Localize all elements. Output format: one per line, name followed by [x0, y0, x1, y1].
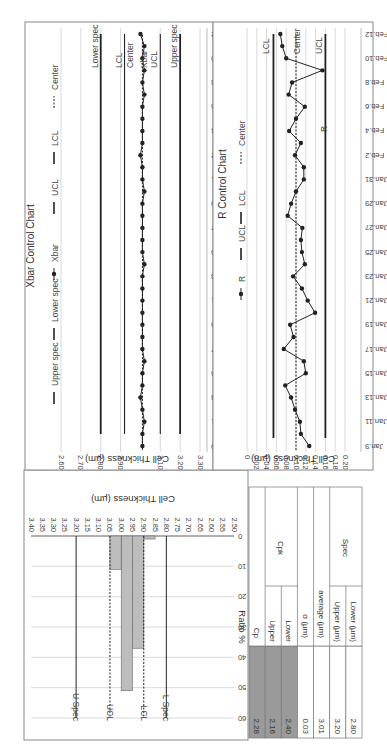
r-data-point [307, 444, 311, 448]
r-data-point [289, 395, 293, 399]
r-data-point [300, 286, 304, 290]
r-data-point [291, 335, 295, 339]
r-annotation: LCL [261, 38, 271, 54]
xbar-data-point [140, 165, 144, 169]
histogram-xtick-label: 2.80 [162, 517, 171, 532]
xbar-data-point [140, 141, 144, 145]
xbar-annotation: Xbar [139, 50, 149, 68]
xbar-ytick-label: 2.60 [57, 455, 66, 470]
r-ytick-label: 0.20 [341, 455, 350, 470]
xbar-data-point [140, 117, 144, 121]
r-xtick-label: Jan.15 [365, 369, 387, 378]
xbar-data-point [140, 177, 144, 181]
r-data-point [303, 105, 307, 109]
r-data-point [300, 250, 304, 254]
xbar-data-point [140, 335, 144, 339]
r-data-point [302, 359, 306, 363]
histogram-ytick-label: 0 [238, 532, 242, 541]
histogram-xtick-label: 2.50 [230, 517, 239, 532]
r-xtick-label: Jan.29 [365, 199, 387, 208]
histogram-ref-label: L Spec [161, 695, 171, 722]
r-data-point [285, 214, 289, 218]
r-data-point [283, 383, 287, 387]
r-data-point [294, 117, 298, 121]
table-value: 2.80 [349, 718, 358, 734]
r-legend-label: R [237, 276, 247, 282]
r-xtick-label: Feb.8 [365, 78, 384, 87]
r-data-point [293, 153, 297, 157]
histogram-xtick-label: 2.55 [218, 517, 227, 532]
table-value: 3.20 [333, 718, 342, 734]
r-xtick-label: Jan.25 [365, 248, 387, 257]
histogram-xtick-label: 2.65 [196, 517, 205, 532]
r-ylabel: Cell Thickness (µm) [251, 454, 335, 465]
histogram-ytick-label: 20 [238, 592, 246, 601]
xbar-annotation: Upper spec [169, 24, 179, 68]
histogram-xtick-label: 2.90 [139, 517, 148, 532]
histogram-ref-label: LCL [139, 705, 149, 721]
r-data-point [291, 274, 295, 278]
table-label-cpk: Cpk [276, 541, 285, 556]
r-annotation: Center [292, 28, 302, 54]
r-data-point [290, 80, 294, 84]
r-data-point [284, 56, 288, 60]
histogram-ytick-label: 50 [238, 683, 246, 692]
histogram-bar [133, 536, 144, 648]
histogram-bar [110, 536, 121, 569]
figure-stage: 01020304050602.502.552.602.652.702.752.8… [0, 0, 387, 754]
xbar-data-point [138, 153, 142, 157]
xbar-ytick-label: 3.30 [196, 455, 205, 470]
r-xtick-label: Jan.9 [365, 442, 383, 451]
r-data-point [302, 177, 306, 181]
histogram-xtick-label: 2.95 [128, 517, 137, 532]
r-data-point [320, 68, 324, 72]
histogram-xtick-label: 2.75 [173, 517, 182, 532]
r-data-point [303, 262, 307, 266]
xbar-data-point [140, 383, 144, 387]
xbar-title: Xbar Control Chart [25, 204, 36, 288]
xbar-data-point [140, 311, 144, 315]
xbar-legend-label: Center [50, 64, 60, 90]
r-xtick-label: Jan.19 [365, 320, 387, 329]
r-xtick-label: Jan.11 [365, 417, 387, 426]
histogram-xtick-label: 3.30 [49, 517, 58, 532]
table-label-spec-lower: Lower (µm) [349, 601, 358, 642]
histogram-ref-label: UCL [105, 704, 115, 721]
xbar-data-point [140, 286, 144, 290]
r-xtick-label: Feb.12 [365, 30, 387, 39]
r-data-point [288, 323, 292, 327]
histogram-ref-label: U Spec [71, 693, 81, 722]
histogram-ytick-label: 10 [238, 562, 246, 571]
histogram-xtick-label: 3.35 [38, 517, 47, 532]
rotated-figure: 01020304050602.502.552.602.652.702.752.8… [24, 22, 387, 740]
histogram-xlabel: Cell Thickness (µm) [91, 494, 175, 505]
histogram-xtick-label: 3.10 [94, 517, 103, 532]
histogram-panel: 01020304050602.502.552.602.652.702.752.8… [24, 470, 248, 740]
xbar-data-point [140, 323, 144, 327]
r-legend-label: LCL [237, 190, 247, 206]
r-xtick-label: Feb.10 [365, 54, 387, 63]
histogram-xtick-label: 2.85 [151, 517, 160, 532]
xbar-data-point [140, 274, 144, 278]
xbar-data-point [140, 407, 144, 411]
r-xtick-label: Jan.27 [365, 223, 387, 232]
xbar-data-point [142, 44, 146, 48]
r-annotation: UCL [314, 37, 324, 54]
r-data-point [299, 432, 303, 436]
xbar-data-point [140, 201, 144, 205]
table-label-spec-upper: Upper (µm) [333, 601, 342, 642]
histogram-bar [121, 536, 132, 691]
xbar-data-point [142, 359, 146, 363]
table-value: 0.03 [301, 718, 310, 734]
table-value: 2.28 [252, 718, 261, 734]
xbar-chart-panel: 3.303.203.102.902.802.702.60Jan.9Jan.11J… [25, 22, 234, 470]
xbar-legend-label: Upper spec [50, 342, 60, 386]
xbar-data-point [140, 238, 144, 242]
xbar-data-point [140, 250, 144, 254]
histogram-xtick-label: 2.70 [184, 517, 193, 532]
r-xtick-label: Feb.6 [365, 102, 384, 111]
r-annotation: R [319, 126, 329, 132]
r-data-point [294, 189, 298, 193]
xbar-data-point [140, 105, 144, 109]
xbar-annotation: Center [125, 42, 135, 68]
